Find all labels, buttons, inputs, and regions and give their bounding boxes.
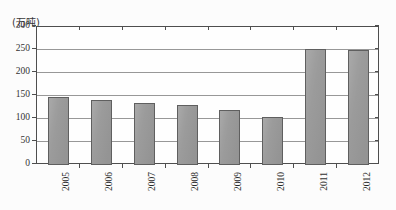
x-tick-mark (208, 164, 209, 168)
y-tick-mark (375, 163, 379, 164)
y-tick-mark (375, 25, 379, 26)
bar (262, 117, 283, 165)
y-tick-mark (375, 94, 379, 95)
y-tick-mark (32, 117, 36, 118)
x-tick-label: 2007 (148, 172, 158, 191)
gridline (37, 141, 378, 142)
y-tick-mark (32, 48, 36, 49)
y-tick-label: 100 (16, 113, 30, 123)
bar (91, 100, 112, 165)
y-tick-label: 50 (21, 136, 31, 146)
x-tick-label: 2010 (277, 172, 287, 191)
y-tick-label: 200 (16, 67, 30, 77)
x-tick-label: 2006 (105, 172, 115, 191)
x-tick-mark (79, 26, 80, 30)
bar-chart-figure: (万吨) 050100150200250300 2005200620072008… (0, 0, 396, 210)
x-tick-mark (250, 26, 251, 30)
bar (219, 110, 240, 165)
bar (305, 49, 326, 165)
x-tick-mark (293, 164, 294, 168)
bar (134, 103, 155, 165)
y-tick-label: 250 (16, 44, 30, 54)
x-tick-mark (293, 26, 294, 30)
x-tick-mark (122, 164, 123, 168)
y-tick-mark (32, 71, 36, 72)
x-tick-mark (165, 26, 166, 30)
x-tick-mark (336, 26, 337, 30)
x-tick-mark (122, 26, 123, 30)
y-tick-label: 150 (16, 90, 30, 100)
x-tick-mark (165, 164, 166, 168)
y-tick-label: 0 (25, 159, 30, 169)
y-tick-mark (375, 71, 379, 72)
bar (177, 105, 198, 165)
x-tick-mark (250, 164, 251, 168)
x-tick-mark (79, 164, 80, 168)
gridline (37, 49, 378, 50)
x-tick-label: 2008 (191, 172, 201, 191)
y-tick-mark (32, 140, 36, 141)
x-tick-label: 2009 (234, 172, 244, 191)
y-tick-label: 300 (16, 21, 30, 31)
x-tick-label: 2005 (62, 172, 72, 191)
plot-area (36, 26, 379, 164)
x-tick-mark (336, 164, 337, 168)
x-tick-mark (208, 26, 209, 30)
x-tick-label: 2011 (320, 172, 330, 191)
y-tick-mark (375, 48, 379, 49)
y-tick-mark (375, 140, 379, 141)
gridline (37, 72, 378, 73)
y-tick-mark (32, 94, 36, 95)
y-tick-mark (32, 163, 36, 164)
y-tick-mark (375, 117, 379, 118)
y-tick-mark (32, 25, 36, 26)
bar (348, 50, 369, 165)
bar (48, 97, 69, 165)
gridline (37, 118, 378, 119)
gridline (37, 95, 378, 96)
x-tick-label: 2012 (363, 172, 373, 191)
